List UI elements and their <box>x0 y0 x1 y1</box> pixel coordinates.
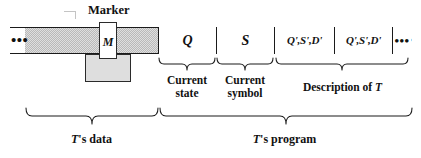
brace-current-state <box>159 58 215 70</box>
tape-cell-transition-2: Q',S',D' <box>334 27 392 54</box>
tape-cell-current-state: Q <box>158 27 216 54</box>
tape-cell-marker: M <box>99 22 117 59</box>
tape-data-shading-right <box>117 28 158 53</box>
tape-cell-current-symbol-label: S <box>242 34 250 48</box>
annotation-t-program-subject: T <box>253 132 260 146</box>
annotation-current-state: Current state <box>158 74 216 100</box>
tape-cell-transition-1-label: Q',S',D' <box>287 35 322 46</box>
annotation-description-of-t: Description of T <box>274 81 411 94</box>
annotation-t-program: T's program <box>158 133 411 146</box>
tape-ellipsis-left: ••• <box>11 30 28 50</box>
tape-cell-current-symbol: S <box>216 27 274 54</box>
tape-cell-current-state-label: Q <box>182 34 192 48</box>
tape-cell-more-label: ••• <box>394 34 409 47</box>
tape-data-shading-left <box>25 28 99 53</box>
annotation-description-prefix: Description of <box>303 81 375 93</box>
annotation-current-state-line2: state <box>176 87 199 99</box>
annotation-t-data-suffix: 's data <box>78 132 112 146</box>
tape-cell-more: ••• <box>392 27 411 54</box>
annotation-description-subject: T <box>375 81 382 93</box>
tape-cell-transition-1: Q',S',D' <box>274 27 334 54</box>
annotation-t-program-suffix: 's program <box>260 132 316 146</box>
brace-description-of-t <box>276 58 408 70</box>
turing-machine-tape-figure: ••• ••• Q S Q',S',D' Q',S',D' ••• M Mark… <box>0 0 421 158</box>
brace-t-program <box>160 108 412 124</box>
brace-current-symbol <box>217 58 273 70</box>
annotation-current-state-line1: Current <box>167 74 207 86</box>
tape-cell-transition-2-label: Q',S',D' <box>346 35 381 46</box>
marker-label: Marker <box>88 3 130 18</box>
brace-t-data <box>26 108 158 124</box>
marker-pointer-icon <box>64 11 76 19</box>
annotation-current-symbol-line2: symbol <box>227 87 262 99</box>
annotation-current-symbol: Current symbol <box>216 74 274 100</box>
annotation-t-data: T's data <box>25 133 158 146</box>
tape-cell-marker-label: M <box>103 36 114 48</box>
annotation-current-symbol-line1: Current <box>225 74 265 86</box>
